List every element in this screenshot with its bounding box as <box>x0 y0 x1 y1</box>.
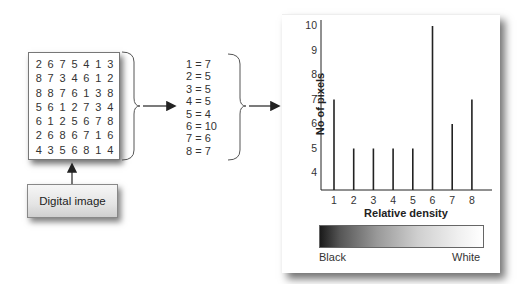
x-tick-label: 1 <box>327 194 341 206</box>
y-tick-label: 9 <box>299 44 317 56</box>
density-gradient-bar <box>319 225 484 248</box>
x-tick-label: 3 <box>366 194 380 206</box>
y-tick-label: 7 <box>299 93 317 105</box>
y-tick-label: 4 <box>299 166 317 178</box>
x-tick-label: 2 <box>347 194 361 206</box>
x-tick-label: 6 <box>426 194 440 206</box>
y-tick-label: 5 <box>299 142 317 154</box>
y-tick-label: 8 <box>299 68 317 80</box>
x-axis-label: Relative density <box>320 207 492 219</box>
x-tick-label: 7 <box>445 194 459 206</box>
x-tick-label: 4 <box>386 194 400 206</box>
y-tick-label: 10 <box>299 19 317 31</box>
black-label: Black <box>319 251 346 263</box>
x-tick-label: 5 <box>406 194 420 206</box>
y-tick-label: 6 <box>299 117 317 129</box>
white-label: White <box>452 251 480 263</box>
x-tick-label: 8 <box>465 194 479 206</box>
